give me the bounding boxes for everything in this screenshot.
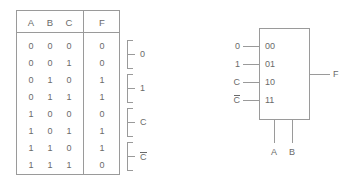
truth-table-cell: 1 [95, 127, 109, 136]
truth-table-header-a: A [24, 18, 38, 27]
mux-select-label-a: A [268, 148, 280, 157]
group-bracket-label-3-overbar: C [140, 152, 147, 162]
mux-input-wire-2 [243, 82, 259, 83]
mux-select-wire-a [274, 120, 275, 143]
truth-table-cell: 0 [62, 76, 76, 85]
truth-table-cell: 1 [62, 127, 76, 136]
truth-table-cell: 0 [62, 42, 76, 51]
truth-table-cell: 0 [95, 110, 109, 119]
truth-table-cell: 0 [43, 110, 57, 119]
mux-select-code-00: 00 [265, 42, 275, 51]
truth-table-cell: 0 [43, 127, 57, 136]
truth-table-cell: 1 [24, 161, 38, 170]
truth-table-cell: 0 [62, 144, 76, 153]
logic-diagram-canvas: A B C F 0 0 0 0 0 0 1 0 0 1 0 1 0 1 1 1 … [0, 0, 357, 188]
mux-select-code-10: 10 [265, 78, 275, 87]
group-bracket-label-2: C [140, 118, 147, 127]
truth-table-cell: 0 [43, 42, 57, 51]
mux-select-label-b: B [286, 148, 298, 157]
mux-input-wire-0 [243, 46, 259, 47]
mux-input-label-3-overbar: C [234, 95, 241, 105]
truth-table-cell: 1 [43, 76, 57, 85]
truth-table-column-divider [83, 11, 84, 174]
group-bracket-label-0: 0 [140, 50, 145, 59]
mux-select-code-11: 11 [265, 96, 274, 105]
group-bracket-label-3: C [140, 152, 147, 162]
truth-table-cell: 1 [43, 144, 57, 153]
mux-output-label: F [333, 70, 339, 79]
truth-table-cell: 1 [43, 161, 57, 170]
truth-table-cell: 1 [95, 93, 109, 102]
truth-table-cell: 1 [24, 110, 38, 119]
mux-input-wire-1 [243, 64, 259, 65]
mux-input-wire-3 [243, 100, 259, 101]
truth-table-cell: 0 [62, 110, 76, 119]
group-bracket-label-1: 1 [140, 84, 145, 93]
truth-table-cell: 0 [95, 59, 109, 68]
truth-table-cell: 0 [24, 59, 38, 68]
truth-table-header-c: C [62, 18, 76, 27]
truth-table-cell: 1 [24, 144, 38, 153]
truth-table-cell: 1 [62, 93, 76, 102]
truth-table-header-b: B [43, 18, 57, 27]
truth-table-cell: 0 [24, 76, 38, 85]
truth-table: A B C F 0 0 0 0 0 0 1 0 0 1 0 1 0 1 1 1 … [16, 10, 120, 175]
truth-table-cell: 1 [62, 59, 76, 68]
mux-select-wire-b [292, 120, 293, 143]
truth-table-cell: 1 [95, 76, 109, 85]
mux-select-code-01: 01 [265, 60, 275, 69]
truth-table-cell: 0 [24, 93, 38, 102]
truth-table-cell: 0 [43, 59, 57, 68]
mux-input-label-3: C [228, 95, 240, 105]
truth-table-cell: 1 [95, 144, 109, 153]
mux-input-label-1: 1 [228, 60, 240, 69]
mux-output-wire [310, 74, 330, 75]
truth-table-cell: 0 [95, 161, 109, 170]
truth-table-cell: 1 [24, 127, 38, 136]
truth-table-header-f: F [95, 18, 109, 27]
truth-table-cell: 0 [24, 42, 38, 51]
mux-input-label-0: 0 [228, 42, 240, 51]
truth-table-cell: 0 [95, 42, 109, 51]
truth-table-cell: 1 [62, 161, 76, 170]
truth-table-cell: 1 [43, 93, 57, 102]
mux-input-label-2: C [228, 78, 240, 87]
